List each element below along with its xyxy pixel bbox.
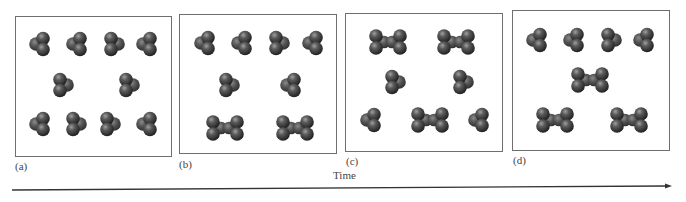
time-arrow-line [12,186,666,190]
atom [533,39,547,53]
atom [143,123,157,137]
trimer-molecule [280,73,301,98]
atom [411,107,425,121]
atom [560,107,574,121]
atom [206,127,220,141]
trimer-molecule [231,31,252,56]
atom [230,115,244,129]
trimer-molecule [453,70,474,95]
atom [453,81,467,95]
atom [461,29,475,43]
atom [536,107,550,121]
trimer-molecule [526,28,547,53]
atom [100,123,114,137]
atom [601,39,615,53]
trimer-molecule [104,32,125,57]
trimer-molecule [219,73,240,98]
panel-label: (d) [513,154,526,166]
atom [634,119,648,133]
atom [475,119,489,133]
trimer-molecule [53,73,74,98]
atom [230,127,244,141]
atom [287,84,301,98]
atom [309,42,323,56]
atom [36,43,50,57]
atom [201,42,215,56]
trimer-molecule [563,28,584,53]
atom [269,42,283,56]
atom [435,119,449,133]
atom [104,43,118,57]
atom [219,84,233,98]
atom [238,42,252,56]
atom [367,119,381,133]
trimer-molecule [119,73,140,98]
trimer-molecule [66,112,87,137]
dimer-molecule [369,29,407,55]
atom [571,67,585,81]
atom [560,119,574,133]
atom [571,79,585,93]
atom [536,119,550,133]
trimer-molecule [385,70,406,95]
atom [385,81,399,95]
atom [595,67,609,81]
atom [300,115,314,129]
trimer-molecule [66,32,87,57]
time-arrow [0,0,686,202]
atom [119,84,133,98]
atom [634,107,648,121]
atom [595,79,609,93]
trimer-molecule [302,31,323,56]
trimer-molecule [136,112,157,137]
dimer-molecule [437,29,475,55]
panel-label: (c) [346,155,358,167]
trimer-molecule [194,31,215,56]
dimer-molecule [536,107,574,133]
trimer-molecule [601,28,622,53]
molecules-layer [29,28,654,141]
dimer-molecule [411,107,449,133]
atom [66,123,80,137]
panel-label: (b) [179,158,192,170]
arrow-head-icon [665,184,672,189]
atom [36,123,50,137]
atom [435,107,449,121]
atom [276,115,290,129]
atom [53,84,67,98]
atom [369,29,383,43]
atom [300,127,314,141]
trimer-molecule [29,112,50,137]
trimer-molecule [100,112,121,137]
trimer-molecule [136,32,157,57]
atom [276,127,290,141]
atom [73,43,87,57]
dimer-molecule [276,115,314,141]
atom [206,115,220,129]
atom [369,41,383,55]
trimer-molecule [633,28,654,53]
atom [437,29,451,43]
atom [437,41,451,55]
trimer-molecule [29,32,50,57]
trimer-molecule [468,108,489,133]
atom [640,39,654,53]
panel-label: (a) [15,160,27,172]
dimer-molecule [571,67,609,93]
atom [143,43,157,57]
atom [411,119,425,133]
atom [610,119,624,133]
atom [393,41,407,55]
atom [570,39,584,53]
atom [610,107,624,121]
trimer-molecule [360,108,381,133]
atom [393,29,407,43]
dimer-molecule [610,107,648,133]
dimer-molecule [206,115,244,141]
atom [461,41,475,55]
trimer-molecule [269,31,290,56]
